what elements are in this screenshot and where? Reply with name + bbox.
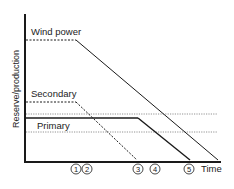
marker-5: 5 <box>184 164 194 174</box>
x-axis-label: Time <box>201 163 222 174</box>
svg-text:1: 1 <box>74 165 78 174</box>
wind-power-series <box>26 40 218 160</box>
primary-label: Primary <box>37 120 70 131</box>
reserve-production-diagram: Reserve/production Wind power Secondary … <box>0 0 234 189</box>
marker-2: 2 <box>82 164 92 174</box>
y-axis-label: Reserve/production <box>11 50 21 128</box>
marker-1: 1 <box>71 164 81 174</box>
wind-power-label: Wind power <box>31 26 81 37</box>
svg-text:3: 3 <box>136 165 140 174</box>
svg-text:4: 4 <box>153 165 157 174</box>
marker-3: 3 <box>133 164 143 174</box>
svg-text:5: 5 <box>187 165 191 174</box>
secondary-label: Secondary <box>31 88 77 99</box>
marker-4: 4 <box>150 164 160 174</box>
svg-text:2: 2 <box>85 165 89 174</box>
secondary-series <box>26 102 137 160</box>
